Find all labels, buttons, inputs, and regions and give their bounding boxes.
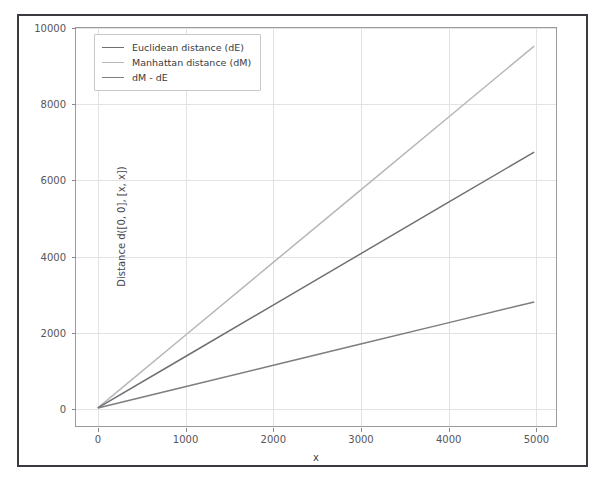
figure-frame: 0 1000 2000 3000 4000 5000 0 2000 4000 6… xyxy=(17,14,588,467)
axes-area: 0 1000 2000 3000 4000 5000 0 2000 4000 6… xyxy=(75,27,557,427)
y-tick xyxy=(72,409,76,410)
legend-label-difference: dM - dE xyxy=(132,72,168,83)
y-tick xyxy=(72,180,76,181)
y-tick-label: 4000 xyxy=(41,251,66,262)
y-tick-label: 0 xyxy=(60,404,66,415)
plot-canvas: 0 1000 2000 3000 4000 5000 0 2000 4000 6… xyxy=(19,16,590,469)
y-axis-label: Distance d([0, 0], [x, x]) xyxy=(116,27,127,427)
y-tick-label: 8000 xyxy=(41,99,66,110)
x-tick xyxy=(273,428,274,432)
y-tick-label: 6000 xyxy=(41,175,66,186)
x-tick-label: 2000 xyxy=(261,434,286,445)
x-tick-label: 3000 xyxy=(348,434,373,445)
x-tick-label: 0 xyxy=(95,434,101,445)
x-tick xyxy=(361,428,362,432)
series-line-difference xyxy=(98,302,534,408)
y-tick-label: 2000 xyxy=(41,327,66,338)
y-tick xyxy=(72,333,76,334)
x-tick-label: 5000 xyxy=(524,434,549,445)
x-tick xyxy=(186,428,187,432)
series-line-euclidean xyxy=(98,152,534,408)
x-tick-label: 4000 xyxy=(436,434,461,445)
legend-label-manhattan: Manhattan distance (dM) xyxy=(132,57,251,68)
legend-label-euclidean: Euclidean distance (dE) xyxy=(132,42,244,53)
x-axis-label: x xyxy=(75,452,557,463)
x-tick xyxy=(449,428,450,432)
x-tick xyxy=(536,428,537,432)
y-tick xyxy=(72,28,76,29)
x-tick-label: 1000 xyxy=(173,434,198,445)
y-tick-label: 10000 xyxy=(34,23,66,34)
y-tick xyxy=(72,257,76,258)
y-tick xyxy=(72,104,76,105)
series-line-manhattan xyxy=(98,46,534,408)
x-tick xyxy=(98,428,99,432)
